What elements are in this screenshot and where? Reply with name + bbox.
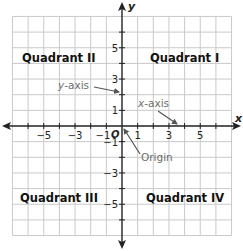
x-tick-label: 5 — [197, 130, 203, 141]
x-tick-label: 3 — [166, 130, 172, 141]
y-tick-label: 1 — [112, 105, 118, 116]
x-tick-label: 1 — [134, 130, 140, 141]
x-tick-label: −3 — [68, 130, 83, 141]
y-tick-label: −5 — [103, 199, 118, 210]
y-axis-label: y — [128, 0, 136, 13]
quadrant-i-label: Quadrant I — [150, 51, 219, 65]
y-tick-label: −3 — [103, 168, 118, 179]
quadrant-iv-label: Quadrant IV — [146, 191, 224, 205]
quadrant-ii-label: Quadrant II — [22, 51, 96, 65]
x-axis-pointer-arrow-icon — [158, 111, 177, 124]
coordinate-plane: −5−3−1135531−1−3−5 y x O Quadrant II Qua… — [0, 0, 243, 251]
origin-annotation: Origin — [141, 151, 173, 163]
x-axis-annotation: x-axis — [137, 97, 169, 109]
x-tick-label: −5 — [36, 130, 51, 141]
origin-label: O — [111, 129, 120, 140]
x-axis-label: x — [234, 112, 243, 125]
y-axis-annotation: y-axis — [57, 79, 89, 91]
y-tick-label: 3 — [112, 74, 118, 85]
y-tick-label: 5 — [112, 43, 118, 54]
quadrant-iii-label: Quadrant III — [20, 191, 98, 205]
